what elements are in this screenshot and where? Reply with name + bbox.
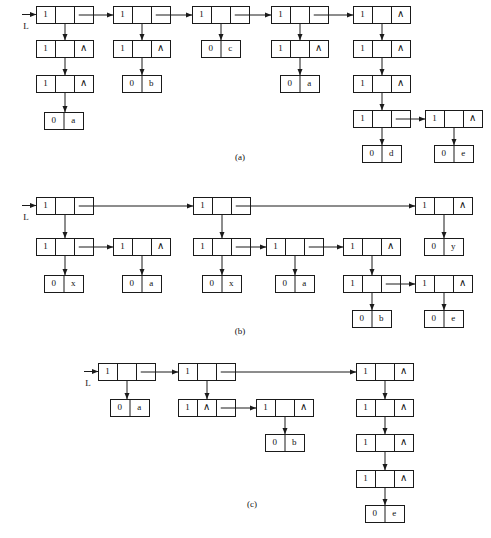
caption-b: (b) [235,326,246,336]
next-nil: ∧ [157,240,164,251]
node-b-n10[interactable]: 1∧ [416,198,473,215]
node-tag: 1 [278,43,283,53]
node-tag: 0 [370,148,375,158]
node-a-n4[interactable]: 1 [114,7,171,24]
node-a-l4[interactable]: 0a [281,76,320,93]
node-tag: 1 [43,9,48,19]
next-nil: ∧ [397,77,404,88]
node-tag: 1 [360,113,365,123]
next-nil: ∧ [469,112,476,123]
node-tag: 1 [120,43,125,53]
node-c-n5[interactable]: 1∧ [357,364,414,381]
node-a-n6[interactable]: 1 [193,7,250,24]
head-label: L [23,212,29,222]
head-pointer-head-c: L [84,372,98,389]
node-tag: 1 [273,241,278,251]
next-nil: ∧ [157,42,164,53]
node-b-n6[interactable]: 1 [267,239,324,256]
node-tag: 0 [52,278,57,288]
node-a-n3[interactable]: 1∧ [37,76,94,93]
node-tag: 1 [43,241,48,251]
atom-value: a [302,278,306,288]
node-tag: 1 [263,402,268,412]
node-b-n1[interactable]: 1 [37,198,94,215]
node-tag: 1 [363,402,368,412]
node-c-l3[interactable]: 0e [366,506,405,523]
node-tag: 1 [43,78,48,88]
node-tag: 1 [360,9,365,19]
node-b-n3[interactable]: 1∧ [114,239,171,256]
node-tag: 0 [442,148,447,158]
node-c-n6[interactable]: 1∧ [357,400,414,417]
node-b-l6[interactable]: 0e [425,311,464,328]
atom-value: c [228,43,232,53]
atom-value: a [137,402,141,412]
next-nil: ∧ [387,240,394,251]
next-nil: ∧ [397,8,404,19]
node-a-n12[interactable]: 1 [354,111,411,128]
node-a-l2[interactable]: 0b [123,76,162,93]
node-a-n5[interactable]: 1∧ [114,41,171,58]
atom-value: y [451,241,456,251]
node-c-l1[interactable]: 0a [111,400,150,417]
node-tag: 0 [118,402,123,412]
node-tag: 0 [288,78,293,88]
node-a-l1[interactable]: 0a [45,113,84,130]
node-tag: 1 [43,200,48,210]
node-b-n2[interactable]: 1 [37,239,94,256]
node-tag: 0 [373,508,378,518]
node-a-n2[interactable]: 1∧ [37,41,94,58]
node-b-n5[interactable]: 1 [194,239,251,256]
node-tag: 0 [52,115,57,125]
node-b-l5[interactable]: 0b [353,311,392,328]
node-c-l2[interactable]: 0b [266,435,305,452]
next-nil: ∧ [459,277,466,288]
node-a-n8[interactable]: 1∧ [272,41,329,58]
node-c-n8[interactable]: 1∧ [357,471,414,488]
node-tag: 1 [43,43,48,53]
node-b-n7[interactable]: 1∧ [344,239,401,256]
caption-a: (a) [235,152,245,162]
node-a-n7[interactable]: 1 [272,7,329,24]
node-tag: 0 [130,78,135,88]
node-a-n1[interactable]: 1 [37,7,94,24]
node-b-l1[interactable]: 0x [45,276,84,293]
next-nil: ∧ [400,401,407,412]
atom-value: a [307,78,311,88]
atom-value: b [379,313,384,323]
node-a-n11[interactable]: 1∧ [354,76,411,93]
node-tag: 1 [278,9,283,19]
node-a-n9[interactable]: 1∧ [354,7,411,24]
next-nil: ∧ [400,436,407,447]
node-a-l6[interactable]: 0e [435,146,474,163]
node-c-n7[interactable]: 1∧ [357,435,414,452]
node-tag: 1 [120,9,125,19]
node-c-n4[interactable]: 1∧ [257,400,314,417]
node-c-n3[interactable]: 1∧ [179,400,236,417]
atom-value: e [451,313,455,323]
node-a-l3[interactable]: 0c [202,41,241,58]
node-c-n1[interactable]: 1 [99,364,156,381]
node-b-n4[interactable]: 1 [194,198,251,215]
node-b-n8[interactable]: 1 [344,276,401,293]
node-tag: 0 [360,313,365,323]
node-a-l5[interactable]: 0d [363,146,402,163]
node-a-n13[interactable]: 1∧ [426,111,483,128]
node-b-l3[interactable]: 0x [203,276,242,293]
node-tag: 1 [422,278,427,288]
node-b-l4[interactable]: 0a [276,276,315,293]
node-a-n10[interactable]: 1∧ [354,41,411,58]
node-c-n2[interactable]: 1 [179,364,236,381]
head-pointer-head-b: L [22,206,36,223]
node-b-n9[interactable]: 1∧ [416,276,473,293]
node-tag: 1 [363,366,368,376]
node-tag: 1 [363,437,368,447]
node-b-l2[interactable]: 0a [123,276,162,293]
node-b-l7[interactable]: 0y [425,239,464,256]
head-pointer-head-a: L [22,15,36,32]
head-label: L [23,21,29,31]
node-tag: 0 [283,278,288,288]
next-nil: ∧ [80,42,87,53]
next-nil: ∧ [300,401,307,412]
generalized-list-diagram: 11∧1∧0a11∧0b10c11∧0a1∧1∧1∧10d1∧0e110x1∧0… [0,0,491,538]
